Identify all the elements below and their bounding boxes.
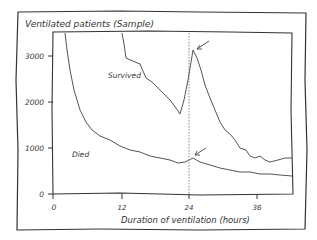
y-tick-0: 0	[39, 190, 44, 199]
series-survived-line	[122, 33, 292, 162]
chart-title: Ventilated patients (Sample)	[25, 19, 154, 29]
plot-frame	[52, 31, 293, 195]
x-tick-24: 24	[185, 204, 194, 212]
arrow-survived-peak-icon	[197, 41, 209, 49]
chart-canvas: Ventilated patients (Sample) 3000 2000 1…	[0, 0, 317, 240]
x-tick-36: 36	[253, 204, 262, 212]
y-tick-1000: 1000	[25, 144, 44, 153]
x-axis-label: Duration of ventilation (hours)	[121, 215, 250, 225]
y-tick-3000: 3000	[25, 52, 44, 61]
series-label-died: Died	[72, 150, 89, 159]
series-died-line	[65, 33, 292, 176]
series-label-survived: Survived	[108, 71, 141, 80]
x-tick-12: 12	[118, 204, 127, 212]
outer-frame	[16, 11, 307, 230]
arrow-died-bump-icon	[195, 148, 206, 155]
x-tick-0: 0	[52, 203, 57, 212]
y-tick-2000: 2000	[25, 98, 44, 107]
